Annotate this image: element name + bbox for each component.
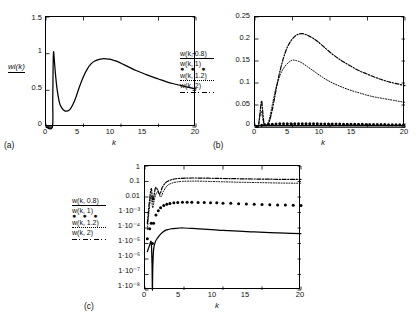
panel-b-ytick-0.15: 0.15 bbox=[220, 56, 250, 64]
legend-bottom: w(k, 0.8) w(k, 1) ● ● ● w(k, 1.2) w(k, 2… bbox=[72, 197, 106, 242]
legend-c-entry-3: w(k, 2) bbox=[72, 229, 106, 241]
panel-c-ytick-1e-8: 1·10⁻⁸ bbox=[108, 282, 140, 290]
panel-b-id: (b) bbox=[213, 140, 223, 150]
panel-b-ytick-0.05: 0.05 bbox=[220, 100, 250, 108]
legend-label-3: w(k, 2) bbox=[180, 82, 214, 89]
panel-a-ytick-1.5: 1.5 bbox=[18, 14, 42, 22]
panel-a-ylabel: wi(k) bbox=[8, 62, 25, 71]
panel-a-ytick-0.5: 0.5 bbox=[18, 84, 42, 92]
legend-top: w(k, 0.8) w(k, 1) ● ● ● w(k, 1.2) w(k, 2… bbox=[180, 50, 214, 95]
legend-c-label-0: w(k, 0.8) bbox=[72, 197, 106, 204]
legend-c-key-dots: ● ● ● bbox=[72, 214, 106, 218]
panel-c-ytick-1e-7: 1·10⁻⁷ bbox=[108, 267, 140, 275]
panel-a-ytick-1: 1 bbox=[18, 47, 42, 55]
panel-c-xtick-15: 15 bbox=[237, 291, 253, 299]
panel-a-id: (a) bbox=[4, 140, 14, 150]
panel-b-ytick-0.1: 0.1 bbox=[220, 78, 250, 86]
legend-entry-0: w(k, 0.8) bbox=[180, 50, 214, 60]
panel-b-plot-area bbox=[254, 16, 404, 126]
panel-c-xtick-0: 0 bbox=[136, 291, 152, 299]
panel-c-xtick-5: 5 bbox=[170, 291, 186, 299]
panel-c-ytick-1: 1 bbox=[110, 163, 140, 171]
legend-key-dashdot bbox=[180, 91, 214, 94]
panel-a-ytick-0: 0 bbox=[18, 120, 42, 128]
panel-c-ytick-1e-6: 1·10⁻⁶ bbox=[108, 252, 140, 260]
panel-c-xtick-20: 20 bbox=[292, 291, 308, 299]
panel-c-ytick-1e-3: 1·10⁻³ bbox=[108, 207, 140, 215]
panel-a-plot-area bbox=[45, 16, 195, 126]
panel-c-ytick-1e-4: 1·10⁻⁴ bbox=[108, 222, 140, 230]
panel-c-ytick-0.01: 0.01 bbox=[110, 192, 140, 200]
panel-b-xtick-10: 10 bbox=[311, 128, 327, 136]
panel-a-xtick-15: 15 bbox=[134, 128, 150, 136]
legend-c-entry-2: w(k, 1.2) bbox=[72, 219, 106, 229]
legend-key-dots: ● ● ● bbox=[180, 67, 214, 71]
panel-c-id: (c) bbox=[84, 301, 94, 311]
panel-a-xlabel: k bbox=[112, 138, 116, 147]
panel-b-xtick-0: 0 bbox=[246, 128, 262, 136]
legend-c-entry-1: w(k, 1) ● ● ● bbox=[72, 207, 106, 219]
panel-b-xtick-15: 15 bbox=[343, 128, 359, 136]
legend-key-solid bbox=[180, 58, 214, 59]
legend-entry-1: w(k, 1) ● ● ● bbox=[180, 60, 214, 72]
legend-c-key-solid bbox=[72, 205, 106, 206]
legend-label-0: w(k, 0.8) bbox=[180, 50, 214, 57]
panel-b-xtick-5: 5 bbox=[279, 128, 295, 136]
panel-c-plot-area bbox=[144, 165, 300, 289]
panel-c-ytick-1e-5: 1·10⁻⁵ bbox=[108, 237, 140, 245]
legend-c-key-dotted bbox=[72, 227, 106, 228]
panel-a-xtick-5: 5 bbox=[69, 128, 85, 136]
panel-a-xtick-0: 0 bbox=[37, 128, 53, 136]
legend-key-dotted bbox=[180, 80, 214, 81]
panel-b-xtick-20: 20 bbox=[396, 128, 412, 136]
panel-b-xlabel: k bbox=[321, 138, 325, 147]
panel-a-xtick-10: 10 bbox=[102, 128, 118, 136]
panel-b-ytick-0: 0 bbox=[220, 120, 250, 128]
legend-c-key-dashdot bbox=[72, 238, 106, 241]
legend-c-label-3: w(k, 2) bbox=[72, 229, 106, 236]
legend-label-2: w(k, 1.2) bbox=[180, 72, 214, 79]
panel-b-ytick-0.25: 0.25 bbox=[220, 12, 250, 20]
legend-entry-2: w(k, 1.2) bbox=[180, 72, 214, 82]
panel-c-xlabel: k bbox=[215, 301, 219, 310]
panel-c-xtick-10: 10 bbox=[204, 291, 220, 299]
legend-c-entry-0: w(k, 0.8) bbox=[72, 197, 106, 207]
legend-c-label-2: w(k, 1.2) bbox=[72, 219, 106, 226]
legend-entry-3: w(k, 2) bbox=[180, 82, 214, 94]
panel-a-xtick-20: 20 bbox=[187, 128, 203, 136]
panel-b-ytick-0.2: 0.2 bbox=[220, 34, 250, 42]
panel-c-ytick-0.1: 0.1 bbox=[110, 177, 140, 185]
